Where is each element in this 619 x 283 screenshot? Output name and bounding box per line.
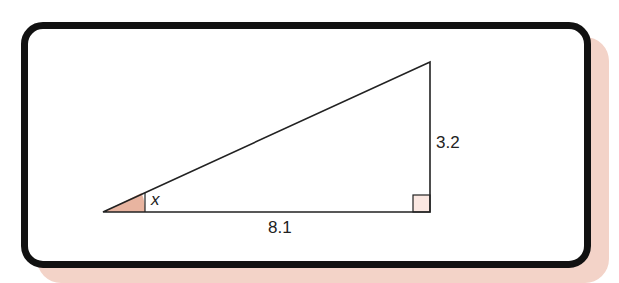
- angle-label: x: [151, 190, 160, 210]
- base-label: 8.1: [268, 218, 292, 238]
- height-label: 3.2: [436, 133, 460, 153]
- right-angle-marker: [413, 195, 430, 212]
- triangle-figure: [0, 0, 619, 283]
